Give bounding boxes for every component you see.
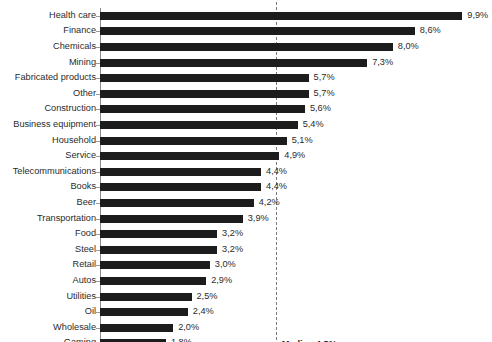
bar — [100, 137, 287, 145]
bar — [100, 261, 210, 269]
bar-chart: Health care9,9%Finance8,6%Chemicals8,0%M… — [0, 0, 492, 342]
bar-value-label: 2,5% — [197, 292, 218, 301]
category-label: Mining — [69, 58, 96, 67]
bar-row: Wholesale2,0% — [0, 320, 492, 336]
category-label: Food — [75, 230, 96, 239]
category-label: Transportation — [37, 214, 96, 223]
bar-row: Beer4,2% — [0, 195, 492, 211]
bar-row: Construction5,6% — [0, 102, 492, 118]
bar-row: Utilities2,5% — [0, 289, 492, 305]
category-label: Steel — [75, 245, 96, 254]
plot-area: Health care9,9%Finance8,6%Chemicals8,0%M… — [0, 0, 492, 342]
bar-row: Household5,1% — [0, 133, 492, 149]
bar-row: Oil2,4% — [0, 304, 492, 320]
bar — [100, 277, 206, 285]
category-label: Business equipment — [13, 120, 96, 129]
bar-row: Health care9,9% — [0, 8, 492, 24]
bar-value-label: 2,0% — [178, 323, 199, 332]
bar-row: Gaming1,8% — [0, 336, 492, 342]
bar — [100, 90, 309, 98]
bar — [100, 59, 367, 67]
bar — [100, 308, 188, 316]
bar-value-label: 3,0% — [215, 261, 236, 270]
bar-value-label: 9,9% — [467, 11, 488, 20]
category-label: Beer — [77, 198, 96, 207]
bar — [100, 27, 415, 35]
category-label: Autos — [73, 276, 97, 285]
bar-row: Business equipment5,4% — [0, 117, 492, 133]
bar-value-label: 5,6% — [310, 105, 331, 114]
bar — [100, 43, 393, 51]
bar — [100, 105, 305, 113]
category-label: Books — [70, 183, 96, 192]
bar-value-label: 3,2% — [222, 245, 243, 254]
bar-value-label: 2,9% — [211, 276, 232, 285]
bar-row: Food3,2% — [0, 226, 492, 242]
bar-row: Chemicals8,0% — [0, 39, 492, 55]
bar-row: Books4,4% — [0, 180, 492, 196]
bar — [100, 168, 261, 176]
bar — [100, 293, 192, 301]
category-label: Health care — [49, 11, 96, 20]
bar — [100, 152, 279, 160]
bar-value-label: 5,7% — [314, 74, 335, 83]
category-label: Oil — [85, 308, 96, 317]
bar-value-label: 4,4% — [266, 167, 287, 176]
bar-row: Retail3,0% — [0, 258, 492, 274]
bar-row: Transportation3,9% — [0, 211, 492, 227]
bar-value-label: 4,4% — [266, 183, 287, 192]
bar-value-label: 5,4% — [303, 120, 324, 129]
bar-value-label: 7,3% — [372, 58, 393, 67]
bar-value-label: 5,1% — [292, 136, 313, 145]
bar-row: Other5,7% — [0, 86, 492, 102]
category-label: Finance — [63, 27, 96, 36]
category-label: Utilities — [66, 292, 96, 301]
bar-value-label: 4,9% — [284, 152, 305, 161]
bar — [100, 12, 462, 20]
category-label: Other — [73, 89, 96, 98]
bar — [100, 199, 254, 207]
bar — [100, 183, 261, 191]
category-label: Household — [52, 136, 96, 145]
bar — [100, 121, 298, 129]
category-label: Chemicals — [53, 42, 96, 51]
bar-value-label: 3,9% — [248, 214, 269, 223]
bar-value-label: 8,0% — [398, 42, 419, 51]
category-label: Wholesale — [53, 323, 96, 332]
bar-row: Finance8,6% — [0, 24, 492, 40]
bar-row: Fabricated products5,7% — [0, 70, 492, 86]
bar-row: Service4,9% — [0, 148, 492, 164]
category-label: Fabricated products — [15, 74, 96, 83]
bar-row: Steel3,2% — [0, 242, 492, 258]
bar-value-label: 8,6% — [420, 27, 441, 36]
bar — [100, 324, 173, 332]
bar — [100, 215, 243, 223]
bar — [100, 246, 217, 254]
bar-value-label: 5,7% — [314, 89, 335, 98]
category-label: Telecommunications — [13, 167, 96, 176]
bar — [100, 230, 217, 238]
bar — [100, 74, 309, 82]
bar-row: Autos2,9% — [0, 273, 492, 289]
bar-row: Mining7,3% — [0, 55, 492, 71]
bar-value-label: 3,2% — [222, 230, 243, 239]
category-label: Service — [65, 152, 96, 161]
category-label: Construction — [44, 105, 96, 114]
bar-row: Telecommunications4,4% — [0, 164, 492, 180]
bar-value-label: 4,2% — [259, 198, 280, 207]
category-label: Retail — [73, 261, 97, 270]
bar-value-label: 2,4% — [193, 308, 214, 317]
